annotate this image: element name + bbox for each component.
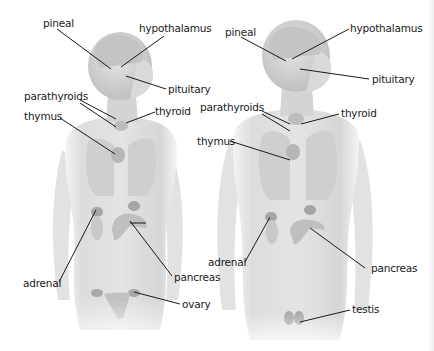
endocrine-diagram: pineal hypothalamus pituitary parathyroi… xyxy=(0,0,434,351)
label-testis: testis xyxy=(352,303,379,315)
page-edge-shade xyxy=(428,0,434,351)
label-pancreas-male: pancreas xyxy=(371,262,417,274)
label-adrenal-female: adrenal xyxy=(23,277,61,289)
label-pineal-male: pineal xyxy=(225,26,256,38)
label-pancreas-female: pancreas xyxy=(174,271,220,283)
label-hypothalamus-male: hypothalamus xyxy=(350,22,422,34)
label-ovary: ovary xyxy=(182,298,211,310)
label-thymus-female: thymus xyxy=(24,110,62,122)
male-figure xyxy=(217,20,380,351)
label-pituitary-female: pituitary xyxy=(168,83,211,95)
label-adrenal-male: adrenal xyxy=(208,256,246,268)
label-pituitary-male: pituitary xyxy=(372,73,415,85)
label-pineal-female: pineal xyxy=(43,17,74,29)
female-figure xyxy=(53,32,183,351)
label-thyroid-female: thyroid xyxy=(155,105,191,117)
label-thyroid-male: thyroid xyxy=(341,107,377,119)
label-thymus-male: thymus xyxy=(197,135,235,147)
label-hypothalamus-female: hypothalamus xyxy=(139,22,211,34)
label-parathyroids-female: parathyroids xyxy=(24,90,88,102)
label-parathyroids-male: parathyroids xyxy=(200,101,264,113)
